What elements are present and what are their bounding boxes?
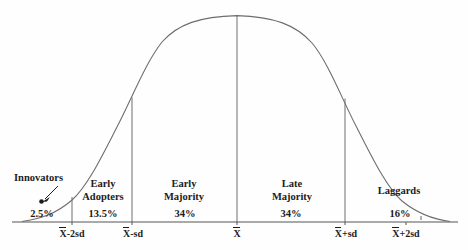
segment-name-late-majority-line1: Late: [266, 178, 318, 191]
segment-label-early-majority: Early Majority: [158, 178, 210, 203]
segment-percent-early-majority: 34%: [164, 208, 206, 219]
segment-label-late-majority: Late Majority: [266, 178, 318, 203]
x-bar-symbol: X: [392, 228, 399, 239]
segment-name-late-majority-line2: Majority: [266, 191, 318, 204]
segment-name-early-majority-line1: Early: [158, 178, 210, 191]
segment-name-early-adopters-line2: Adopters: [77, 191, 129, 204]
axis-tick-minus-2sd: X-2sd: [46, 228, 98, 239]
innovators-target-dot: [39, 199, 44, 204]
innovators-arrow-line: [45, 186, 58, 199]
axis-tick-mean: X: [217, 228, 257, 239]
x-bar-symbol: X: [233, 228, 240, 239]
segment-percent-laggards: 16%: [379, 208, 421, 219]
segment-label-innovators: Innovators: [14, 172, 63, 183]
segment-name-innovators: Innovators: [14, 172, 63, 183]
segment-name-early-adopters-line1: Early: [77, 178, 129, 191]
segment-name-early-majority-line2: Majority: [158, 191, 210, 204]
axis-tick-plus-sd: X+sd: [322, 228, 370, 239]
segment-percent-early-adopters: 13.5%: [82, 208, 124, 219]
x-bar-symbol: X: [59, 228, 66, 239]
segment-label-early-adopters: Early Adopters: [77, 178, 129, 203]
axis-tick-suffix-plus-2sd: +2sd: [400, 228, 420, 239]
x-bar-symbol: X: [335, 228, 342, 239]
adoption-curve-figure: Innovators Early Adopters Early Majority…: [0, 0, 468, 250]
axis-tick-suffix-plus-sd: +sd: [342, 228, 357, 239]
axis-tick-plus-2sd: X+2sd: [380, 228, 432, 239]
segment-name-laggards: Laggards: [368, 185, 430, 198]
axis-tick-suffix-minus-2sd: -2sd: [67, 228, 85, 239]
axis-tick-suffix-minus-sd: -sd: [130, 228, 143, 239]
x-bar-symbol: X: [123, 228, 130, 239]
segment-percent-late-majority: 34%: [270, 208, 312, 219]
segment-label-laggards: Laggards: [368, 185, 430, 198]
axis-tick-minus-sd: X-sd: [109, 228, 157, 239]
segment-percent-innovators: 2.5%: [22, 208, 62, 219]
